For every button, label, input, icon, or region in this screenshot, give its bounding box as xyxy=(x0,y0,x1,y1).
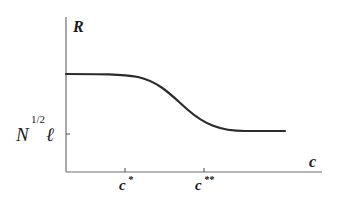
x-tick-label-c-double-star-base: c xyxy=(195,177,202,193)
y-tick-label: N 1/2 ℓ xyxy=(15,113,54,145)
x-axis-label: c xyxy=(309,153,316,170)
chart: R c N 1/2 ℓ c * c ** xyxy=(0,0,338,205)
x-tick-label-c-double-star-sup: ** xyxy=(204,174,215,185)
r-vs-c-curve xyxy=(66,74,285,131)
y-tick-label-base: N xyxy=(15,124,30,145)
x-tick-label-c-star-base: c xyxy=(119,177,126,193)
y-tick-label-suffix: ℓ xyxy=(46,124,54,145)
x-tick-label-c-star-sup: * xyxy=(128,174,134,185)
x-tick-label-c-star: c * xyxy=(119,174,134,193)
y-axis-label: R xyxy=(72,18,84,35)
x-tick-label-c-double-star: c ** xyxy=(195,174,215,193)
y-tick-label-exponent: 1/2 xyxy=(31,113,45,125)
